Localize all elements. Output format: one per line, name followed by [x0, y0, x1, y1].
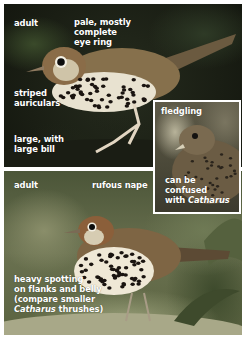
spot — [132, 100, 136, 104]
spot — [146, 84, 150, 88]
spot — [79, 92, 83, 96]
spot — [137, 256, 141, 260]
spot — [142, 99, 146, 103]
spot — [107, 93, 111, 97]
spot — [210, 164, 213, 167]
callout-line: (compare smaller — [14, 294, 103, 304]
spot — [116, 256, 120, 260]
spot — [116, 274, 120, 278]
spot — [74, 85, 78, 89]
spot — [229, 175, 232, 178]
callout-line: with Catharus — [165, 195, 230, 205]
callout-line: can be — [165, 175, 230, 185]
spot — [80, 270, 84, 274]
callout-suffix: thrushes) — [56, 304, 103, 314]
spot — [220, 153, 223, 156]
spot — [107, 286, 111, 290]
spot — [101, 77, 105, 81]
callout-line: on flanks and belly — [14, 284, 103, 294]
spot — [90, 83, 94, 87]
callout-size: large, with large bill — [14, 134, 64, 154]
bird-bill — [26, 66, 44, 72]
spot — [203, 157, 206, 160]
callout-line: pale, mostly — [74, 17, 131, 27]
spot — [95, 89, 99, 93]
spot — [130, 260, 134, 264]
spot — [220, 166, 223, 169]
spot — [79, 264, 83, 268]
callout-line: eye ring — [74, 37, 131, 47]
spot — [89, 263, 93, 267]
spot — [100, 98, 104, 102]
callout-spotting: heavy spotting on flanks and belly (comp… — [14, 274, 103, 314]
spot — [136, 261, 140, 265]
spot — [229, 157, 232, 160]
spot — [123, 254, 127, 258]
spot — [211, 161, 214, 164]
spot — [91, 77, 95, 81]
spot — [132, 78, 136, 82]
spot — [99, 259, 103, 263]
spot — [109, 265, 113, 269]
spot — [206, 167, 209, 170]
callout-line: large, with — [14, 134, 64, 144]
spot — [124, 266, 128, 270]
bird-eye — [57, 58, 65, 66]
genus-name: Catharus — [14, 304, 56, 314]
callout-line: large bill — [14, 144, 64, 154]
spot — [122, 283, 126, 287]
spot — [187, 171, 190, 174]
panel-title-adult-top: adult — [14, 18, 38, 28]
callout-rufous-nape: rufous nape — [92, 180, 148, 190]
spot — [101, 84, 105, 88]
callout-line: auriculars — [14, 98, 60, 108]
spot — [108, 100, 112, 104]
moss-ground — [4, 313, 242, 335]
spot — [84, 257, 88, 261]
spot — [109, 252, 113, 256]
spot — [117, 96, 121, 100]
spot — [93, 104, 97, 108]
spot — [141, 275, 145, 279]
panel-title-fledgling: fledgling — [161, 106, 202, 116]
spot — [130, 282, 134, 286]
spot — [132, 263, 136, 267]
spot — [71, 93, 75, 97]
spot — [117, 271, 121, 275]
spot — [229, 164, 232, 167]
bird-eye — [89, 224, 95, 230]
bird-face — [84, 229, 104, 245]
fledgling-eye — [192, 133, 198, 139]
spot — [131, 91, 135, 95]
spot — [85, 98, 89, 102]
spot — [141, 260, 145, 264]
spot — [104, 260, 108, 264]
spot — [78, 78, 82, 82]
photo-fledgling-inset: fledgling can be confused with Catharus — [153, 100, 241, 214]
spot — [121, 85, 125, 89]
callout-line: Catharus thrushes) — [14, 304, 103, 314]
spot — [105, 105, 109, 109]
spot — [84, 268, 88, 272]
spot — [130, 253, 134, 257]
spot — [142, 84, 146, 88]
spot — [126, 102, 130, 106]
callout-line: heavy spotting — [14, 274, 103, 284]
spot — [89, 99, 93, 103]
spot — [139, 268, 143, 272]
spot — [234, 173, 237, 176]
callout-confusion: can be confused with Catharus — [165, 175, 230, 205]
bird-bill — [64, 229, 80, 233]
callout-auriculars: striped auriculars — [14, 88, 60, 108]
spot — [191, 160, 194, 163]
spot — [119, 251, 123, 255]
panel-title-adult-bottom: adult — [14, 180, 38, 190]
spot — [86, 78, 90, 82]
spot — [130, 277, 134, 281]
callout-eye-ring: pale, mostly complete eye ring — [74, 17, 131, 47]
callout-line: complete — [74, 27, 131, 37]
callout-line: striped — [14, 88, 60, 98]
spot — [88, 92, 92, 96]
spot — [233, 170, 236, 173]
fledgling-head — [179, 125, 215, 155]
